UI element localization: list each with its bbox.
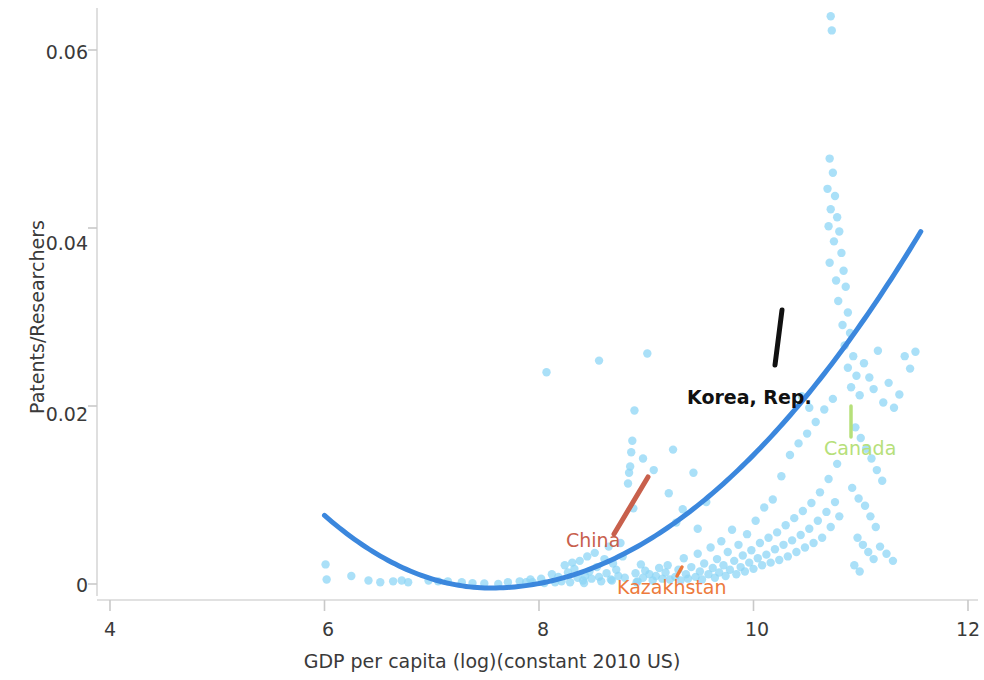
scatter-point [766,558,774,566]
scatter-point [732,570,740,578]
scatter-point [669,445,677,453]
scatter-point [809,539,817,547]
scatter-point [790,514,798,522]
scatter-point [779,541,787,549]
scatter-point [389,577,397,585]
scatter-point [906,364,914,372]
scatter-point [583,552,591,560]
scatter-point [801,543,809,551]
scatter-point [792,548,800,556]
scatter-point [805,525,813,533]
scatter-point [876,542,884,550]
annotation-line-korea-rep [775,310,782,365]
x-axis-title: GDP per capita (log)(constant 2010 US) [0,650,984,672]
scatter-point [827,12,835,20]
scatter-point [882,550,890,558]
scatter-point [786,451,794,459]
scatter-point [889,557,897,565]
scatter-point [624,479,632,487]
scatter-point [717,537,725,545]
scatter-point [760,503,768,511]
scatter-point [576,557,584,565]
scatter-point [664,561,672,569]
scatter-point [706,543,714,551]
scatter-point [796,531,804,539]
scatter-point [901,352,909,360]
scatter-point [827,205,835,213]
scatter-point [794,439,802,447]
scatter-point [680,554,688,562]
scatter-point [911,348,919,356]
annotation-label-canada: Canada [824,437,896,459]
scatter-point [812,418,820,426]
scatter-point [865,373,873,381]
x-tick-label-10: 10 [727,618,787,640]
scatter-point [376,578,384,586]
scatter-point [814,517,822,525]
scatter-point [769,495,777,503]
scatter-point [825,259,833,267]
scatter-point [884,379,892,387]
scatter-point [747,546,755,554]
scatter-point [626,462,634,470]
scatter-point [743,530,751,538]
scatter-point [608,576,616,584]
annotation-label-kazakhstan: Kazakhstan [617,576,726,598]
scatter-point [848,484,856,492]
scatter-point [831,192,839,200]
x-tick-label-4: 4 [80,618,140,640]
scatter-point [650,466,658,474]
scatter-point [771,545,779,553]
scatter-point [773,528,781,536]
scatter-point [788,536,796,544]
scatter-point [879,398,887,406]
scatter-point [799,507,807,515]
scatter-point [730,557,738,565]
axis-ticks [88,50,968,611]
plot-canvas [0,0,984,680]
scatter-point [825,154,833,162]
scatter-point [694,550,702,558]
scatter-point [861,501,869,509]
scatter-point [847,383,855,391]
scatter-point [781,521,789,529]
scatter-point [700,559,708,567]
scatter-point [639,454,647,462]
scatter-point [751,517,759,525]
scatter-point [321,560,329,568]
scatter-point [890,404,898,412]
annotation-label-korea-rep: Korea, Rep. [687,386,812,408]
scatter-point [822,508,830,516]
scatter-point [630,406,638,414]
axis-lines [97,8,978,600]
scatter-point [820,405,828,413]
scatter-point [696,567,704,575]
scatter-point [404,578,412,586]
scatter-point [665,489,673,497]
scatter-point [855,567,863,575]
scatter-point [643,349,651,357]
scatter-point [844,308,852,316]
scatter-point [823,185,831,193]
scatter-point [587,574,595,582]
scatter-point [829,169,837,177]
scatter-point [855,391,863,399]
scatter-point [824,222,832,230]
scatter-point [824,475,832,483]
scatter-point [687,563,695,571]
scatter-point [839,267,847,275]
scatter-point [595,356,603,364]
scatter-point [869,555,877,563]
scatter-point [833,460,841,468]
scatter-point [756,539,764,547]
scatter-point [878,477,886,485]
scatter-point [832,276,840,284]
scatter-point [895,390,903,398]
scatter-point [580,579,588,587]
scatter-point [739,551,747,559]
scatter-points [321,12,919,588]
scatter-point [347,572,355,580]
scatter-point [864,548,872,556]
scatter-point [860,359,868,367]
scatter-point [322,575,330,583]
